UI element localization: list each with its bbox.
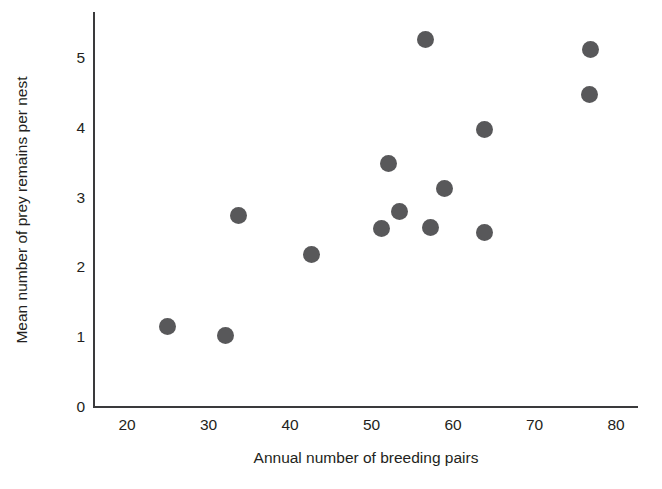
data-point (476, 121, 493, 138)
y-tick-label: 1 (76, 329, 85, 345)
y-tick-label: 4 (76, 120, 85, 136)
y-axis-title: Mean number of prey remains per nest (13, 76, 31, 343)
data-point (373, 220, 390, 237)
x-axis-title: Annual number of breeding pairs (254, 449, 479, 467)
y-tick-label: 5 (76, 50, 85, 66)
scatter-plot-figure: 20304050607080 012345 Annual number of b… (0, 0, 662, 489)
data-point (422, 219, 439, 236)
y-tick-label: 3 (76, 190, 85, 206)
data-point (303, 246, 320, 263)
data-point (417, 31, 434, 48)
x-tick-label: 20 (118, 417, 135, 433)
x-tick-label: 80 (607, 417, 624, 433)
y-tick-label: 0 (76, 399, 85, 415)
x-tick-label: 30 (200, 417, 217, 433)
data-point (436, 180, 453, 197)
data-point (217, 327, 234, 344)
data-point (380, 155, 397, 172)
data-point (476, 224, 493, 241)
data-point (159, 318, 176, 335)
data-point (391, 203, 408, 220)
y-tick-label: 2 (76, 260, 85, 276)
plot-area (93, 12, 638, 407)
data-point (581, 86, 598, 103)
x-tick-label: 60 (444, 417, 461, 433)
x-tick-label: 70 (526, 417, 543, 433)
data-point (230, 207, 247, 224)
data-point (582, 41, 599, 58)
x-tick-label: 40 (281, 417, 298, 433)
x-tick-label: 50 (363, 417, 380, 433)
